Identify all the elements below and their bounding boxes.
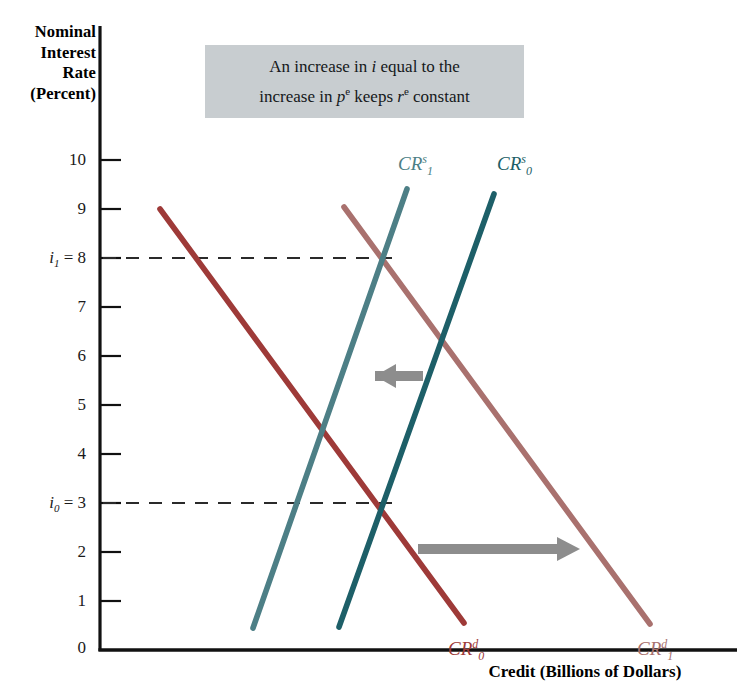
ytick-label-2: 2 [0,542,86,562]
curve-label-supply-1-base: CR [398,153,422,174]
plot-canvas [0,0,737,697]
y-axis-ticks [100,160,121,601]
ytick-label-10: 10 [0,150,86,170]
curve-label-supply-1: CRs1 [398,152,433,179]
curve-demand-0 [160,209,464,623]
ytick-label-7: 7 [0,297,86,317]
curve-demand-1 [344,207,650,624]
curve-label-supply-0-sub: 0 [526,164,532,178]
supply-shift-arrow [375,364,423,388]
demand-shift-arrow [418,537,580,561]
ytick-label-9: 9 [0,199,86,219]
credit-market-chart: Nominal Interest Rate (Percent) An incre… [0,0,737,697]
curve-label-demand-1-base: CR [637,638,661,659]
curve-label-demand-0-base: CR [448,638,472,659]
curve-label-supply-0-base: CR [497,153,521,174]
ytick-label-6: 6 [0,346,86,366]
i0-equals-value: = 3 [59,493,86,512]
ytick-label-0: 0 [0,638,86,658]
i1-equals-value: = 8 [59,248,86,267]
ytick-label-3-i0: i0 = 3 [0,493,86,514]
ytick-label-5: 5 [0,395,86,415]
x-axis-title: Credit (Billions of Dollars) [437,662,733,682]
ytick-label-4: 4 [0,444,86,464]
curve-label-demand-1: CRd1 [637,637,673,664]
curve-label-demand-0: CRd0 [448,637,484,664]
curve-label-supply-0: CRs0 [497,152,532,179]
ytick-label-1: 1 [0,591,86,611]
curve-label-supply-1-sub: 1 [427,164,433,178]
curve-supply-1 [253,189,407,628]
ytick-label-8-i1: i1 = 8 [0,248,86,269]
